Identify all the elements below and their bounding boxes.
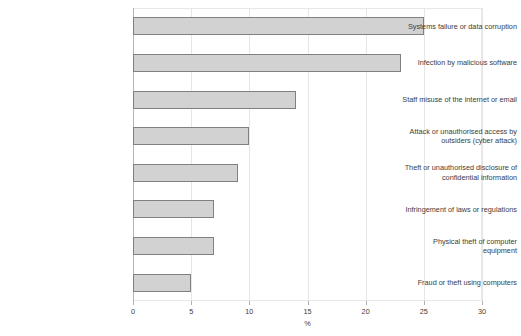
gridline-30 <box>482 8 483 301</box>
category-label-line: Staff misuse of the internet or email <box>393 95 517 104</box>
bar[interactable] <box>133 164 238 182</box>
bar[interactable] <box>133 200 214 218</box>
category-label: Theft or unauthorised disclosure ofconfi… <box>393 163 521 182</box>
category-label: Infringement of laws or regulations <box>393 205 521 214</box>
tick-mark-30 <box>482 301 483 305</box>
bar[interactable] <box>133 54 401 72</box>
tick-label-20: 20 <box>351 307 381 316</box>
gridline-5 <box>191 8 192 301</box>
category-label: Staff misuse of the internet or email <box>393 95 521 104</box>
x-axis-title: % <box>133 319 482 328</box>
category-label-line: equipment <box>393 246 517 255</box>
tick-label-10: 10 <box>234 307 264 316</box>
category-label-line: Physical theft of computer <box>393 237 517 246</box>
bar[interactable] <box>133 91 296 109</box>
tick-label-5: 5 <box>176 307 206 316</box>
category-label: Systems failure or data corruption <box>393 22 521 31</box>
category-label-line: Systems failure or data corruption <box>393 22 517 31</box>
gridline-10 <box>249 8 250 301</box>
gridline-20 <box>366 8 367 301</box>
tick-mark-20 <box>366 301 367 305</box>
category-label-line: outsiders (cyber attack) <box>393 136 517 145</box>
gridline-25 <box>424 8 425 301</box>
bar[interactable] <box>133 17 424 35</box>
category-label-line: Fraud or theft using computers <box>393 278 517 287</box>
category-label-line: Infection by malicious software <box>393 58 517 67</box>
category-label-line: Attack or unauthorised access by <box>393 127 517 136</box>
bar[interactable] <box>133 274 191 292</box>
category-label-line: Infringement of laws or regulations <box>393 205 517 214</box>
bar-chart: Systems failure or data corruptionInfect… <box>0 0 521 336</box>
category-label-line: confidential information <box>393 173 517 182</box>
tick-mark-25 <box>424 301 425 305</box>
category-label: Infection by malicious software <box>393 58 521 67</box>
bar[interactable] <box>133 237 214 255</box>
tick-mark-5 <box>191 301 192 305</box>
tick-label-15: 15 <box>293 307 323 316</box>
gridline-15 <box>308 8 309 301</box>
gridline-0 <box>133 8 134 301</box>
tick-label-30: 30 <box>467 307 497 316</box>
tick-label-0: 0 <box>118 307 148 316</box>
category-label: Fraud or theft using computers <box>393 278 521 287</box>
category-label-line: Theft or unauthorised disclosure of <box>393 163 517 172</box>
bar[interactable] <box>133 127 249 145</box>
tick-mark-10 <box>249 301 250 305</box>
tick-mark-15 <box>308 301 309 305</box>
tick-mark-0 <box>133 301 134 305</box>
category-label: Attack or unauthorised access byoutsider… <box>393 127 521 146</box>
tick-label-25: 25 <box>409 307 439 316</box>
category-label: Physical theft of computerequipment <box>393 237 521 256</box>
